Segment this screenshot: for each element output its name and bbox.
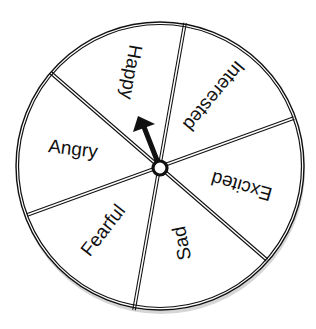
emotion-spinner-wheel[interactable]: Happy Interested Excited Sad Fearful Ang…: [0, 0, 316, 329]
spinner-hub[interactable]: [153, 161, 167, 175]
